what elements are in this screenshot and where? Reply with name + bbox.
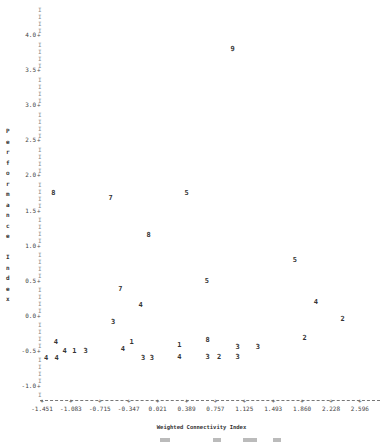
y-tick-label: -0.5: [0, 348, 36, 354]
x-tick-mark: +: [271, 398, 275, 404]
data-point: 3: [235, 344, 239, 351]
y-axis-label-char: e: [6, 233, 10, 239]
x-tick-label: 0.757: [206, 406, 224, 412]
y-axis-label-char: m: [6, 191, 10, 197]
y-axis-label-char: r: [6, 181, 10, 187]
y-axis-label-char: r: [6, 149, 10, 155]
y-tick-label: 1.0: [0, 243, 36, 249]
data-point: 4: [121, 346, 125, 353]
x-tick-mark: +: [242, 398, 246, 404]
data-point: 9: [231, 46, 235, 53]
data-point: 4: [54, 354, 58, 361]
y-axis-label-char: n: [6, 265, 10, 271]
data-point: 7: [118, 286, 122, 293]
y-axis-label-char: d: [6, 275, 10, 281]
y-axis-label-char: f: [6, 160, 10, 166]
data-point: 7: [109, 194, 113, 201]
y-axis-segment: I: [38, 238, 42, 244]
y-axis-label-char: P: [6, 128, 10, 134]
data-point: 4: [177, 354, 181, 361]
data-point: 8: [51, 189, 55, 196]
y-axis-label-char: c: [6, 223, 10, 229]
data-point: 3: [235, 354, 239, 361]
y-axis-segment: I: [38, 273, 42, 279]
y-tick-label: 3.0: [0, 102, 36, 108]
x-tick-mark: +: [358, 398, 362, 404]
cropped-text-fragment: [243, 438, 257, 442]
data-point: 3: [111, 319, 115, 326]
y-axis-segment: I: [38, 63, 42, 69]
y-axis-segment: I: [38, 378, 42, 384]
data-point: 4: [54, 338, 58, 345]
y-axis-label-char: e: [6, 139, 10, 145]
x-axis-label: Weighted Connectivity Index: [0, 424, 383, 430]
x-tick-label: 1.125: [235, 406, 253, 412]
x-tick-mark: +: [69, 398, 73, 404]
x-tick-mark: +: [300, 398, 304, 404]
x-tick-mark: +: [185, 398, 189, 404]
x-tick-label: 2.228: [322, 406, 340, 412]
y-axis-label-char: a: [6, 202, 10, 208]
data-point: 4: [314, 298, 318, 305]
y-axis-segment: I: [38, 98, 42, 104]
data-point: 3: [150, 354, 154, 361]
x-tick-mark: +: [156, 398, 160, 404]
y-axis-label-char: I: [6, 254, 10, 260]
y-tick-label: 3.5: [0, 67, 36, 73]
data-point: 1: [177, 341, 181, 348]
data-point: 2: [217, 354, 221, 361]
x-tick-label: 1.493: [264, 406, 282, 412]
data-point: 4: [63, 347, 67, 354]
y-axis-label-char: o: [6, 170, 10, 176]
data-point: 4: [44, 354, 48, 361]
data-point: 5: [293, 256, 297, 263]
x-tick-label: -1.083: [60, 406, 82, 412]
x-tick-mark: +: [214, 398, 218, 404]
y-axis-label-char: x: [6, 296, 10, 302]
y-axis-segment: I: [38, 168, 42, 174]
data-point: 3: [206, 354, 210, 361]
y-tick-label: 4.0: [0, 32, 36, 38]
y-axis-segment: I: [38, 308, 42, 314]
y-tick-label: 0.0: [0, 313, 36, 319]
data-point: 3: [84, 347, 88, 354]
y-axis-segment: I: [38, 343, 42, 349]
data-point: 8: [206, 337, 210, 344]
data-point: 3: [141, 354, 145, 361]
x-tick-label: 0.389: [177, 406, 195, 412]
x-tick-mark: +: [98, 398, 102, 404]
cropped-text-fragment: [213, 438, 221, 442]
x-tick-label: 1.860: [293, 406, 311, 412]
x-tick-label: -0.347: [118, 406, 140, 412]
data-point: 5: [185, 189, 189, 196]
x-tick-mark: +: [127, 398, 131, 404]
data-point: 8: [147, 232, 151, 239]
data-point: 2: [341, 316, 345, 323]
data-point: 3: [256, 344, 260, 351]
x-tick-label: 2.596: [351, 406, 369, 412]
y-axis-segment: I: [38, 133, 42, 139]
x-tick-mark: +: [40, 398, 44, 404]
x-tick-label: 0.021: [149, 406, 167, 412]
cropped-text-fragment: [273, 438, 281, 442]
y-axis-label-char: n: [6, 212, 10, 218]
data-point: 4: [139, 301, 143, 308]
data-point: 2: [303, 335, 307, 342]
data-point: 1: [130, 339, 134, 346]
x-tick-label: -1.451: [31, 406, 53, 412]
data-point: 1: [72, 347, 76, 354]
data-point: 5: [205, 277, 209, 284]
x-tick-mark: +: [329, 398, 333, 404]
y-axis-segment: I: [38, 28, 42, 34]
y-axis-segment: I: [38, 203, 42, 209]
x-tick-label: -0.715: [89, 406, 111, 412]
y-tick-label: -1.0: [0, 383, 36, 389]
y-axis-label-char: e: [6, 286, 10, 292]
cropped-text-fragment: [160, 438, 170, 442]
